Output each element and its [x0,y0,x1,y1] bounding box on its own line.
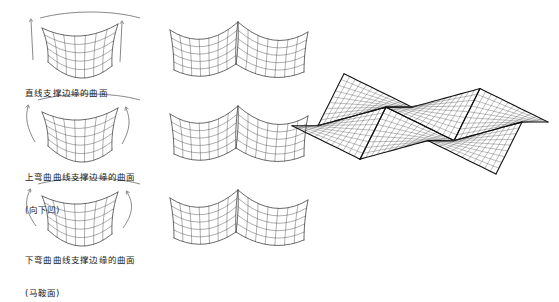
hypar-roof-array [292,74,548,174]
middle-paired-module-3 [170,190,308,245]
row1-arrow-left [31,20,33,60]
label-row-straight-edge: 直线支撑边缘的曲面 [25,66,108,121]
middle-paired-module-1 [170,22,308,77]
label-row-downward-curved-edge: 下弯曲曲线支撑边缘的曲面 (马鞍面) [25,233,135,302]
middle-paired-module-2 [170,106,308,161]
row2-arrow-right [122,108,129,144]
row1-edge-arc [40,12,140,18]
hypar-module [360,107,454,159]
label-row-upward-curved-edge: 上弯曲曲线支撑边缘的曲面 (向下凹) [25,150,135,238]
row1-arrow-right [120,22,122,62]
